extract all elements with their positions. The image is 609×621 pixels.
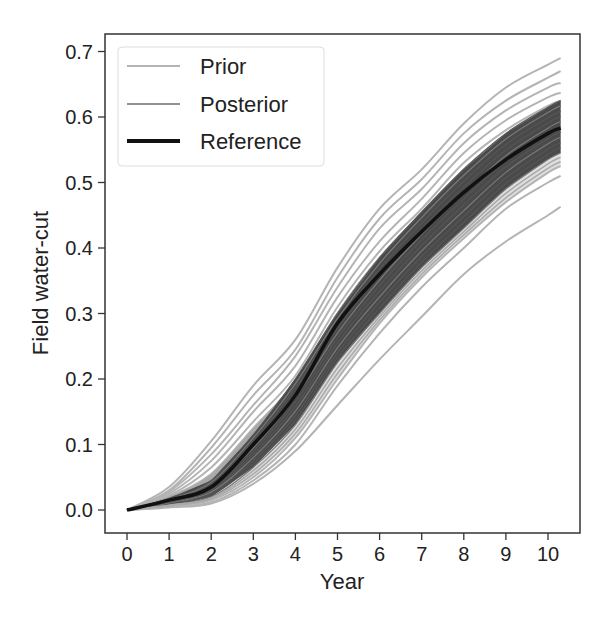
y-tick-label: 0.0 bbox=[65, 499, 93, 521]
x-tick-label: 7 bbox=[416, 543, 427, 565]
x-tick-label: 8 bbox=[458, 543, 469, 565]
y-tick-label: 0.2 bbox=[65, 368, 93, 390]
legend: Prior Posterior Reference bbox=[118, 47, 324, 166]
x-tick-label: 2 bbox=[206, 543, 217, 565]
y-tick-label: 0.5 bbox=[65, 172, 93, 194]
x-tick-label: 3 bbox=[248, 543, 259, 565]
y-tick-label: 0.6 bbox=[65, 106, 93, 128]
y-tick-label: 0.7 bbox=[65, 41, 93, 63]
x-axis-label: Year bbox=[320, 569, 364, 594]
x-tick-label: 10 bbox=[537, 543, 559, 565]
y-tick-label: 0.3 bbox=[65, 303, 93, 325]
x-tick-label: 0 bbox=[121, 543, 132, 565]
legend-prior-label: Prior bbox=[200, 54, 246, 79]
legend-reference-label: Reference bbox=[200, 129, 302, 154]
y-axis: 0.00.10.20.30.40.50.60.7 bbox=[65, 41, 105, 522]
x-tick-label: 9 bbox=[500, 543, 511, 565]
y-axis-label: Field water-cut bbox=[28, 211, 53, 355]
y-tick-label: 0.1 bbox=[65, 434, 93, 456]
y-tick-label: 0.4 bbox=[65, 237, 93, 259]
x-tick-label: 1 bbox=[164, 543, 175, 565]
x-axis: 012345678910 bbox=[121, 533, 559, 565]
x-tick-label: 5 bbox=[332, 543, 343, 565]
legend-posterior-label: Posterior bbox=[200, 92, 288, 117]
x-tick-label: 4 bbox=[290, 543, 301, 565]
x-tick-label: 6 bbox=[374, 543, 385, 565]
water-cut-chart: 012345678910 0.00.10.20.30.40.50.60.7 Ye… bbox=[0, 0, 609, 621]
